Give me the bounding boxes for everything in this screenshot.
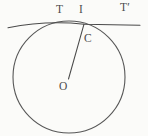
figure-canvas [0,0,148,136]
tangent-line [8,23,140,28]
label-point-o: O [59,81,68,93]
label-point-c: C [84,33,92,45]
label-point-i: I [79,4,83,16]
label-point-t: T [56,4,63,16]
geometry-figure: T I T′ C O [0,0,148,136]
radius-segment [69,24,85,79]
label-point-t-prime: T′ [120,2,130,14]
